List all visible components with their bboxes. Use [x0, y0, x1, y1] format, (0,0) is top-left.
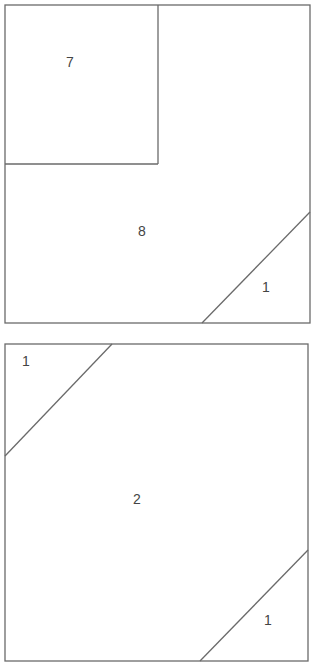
region-label: 1 — [22, 353, 30, 369]
region-label: 8 — [138, 223, 146, 239]
diagonal-top-left — [5, 344, 112, 456]
diagram-canvas: 781121 — [0, 0, 313, 670]
square-1: 781 — [5, 5, 310, 323]
region-label: 1 — [264, 612, 272, 628]
square-outline — [5, 344, 308, 661]
region-label: 7 — [66, 54, 74, 70]
region-label: 2 — [133, 491, 141, 507]
diagonal-bottom-right — [200, 550, 308, 661]
diagonal-bottom-right — [202, 212, 310, 323]
square-2: 121 — [5, 344, 308, 661]
region-label: 1 — [262, 279, 270, 295]
